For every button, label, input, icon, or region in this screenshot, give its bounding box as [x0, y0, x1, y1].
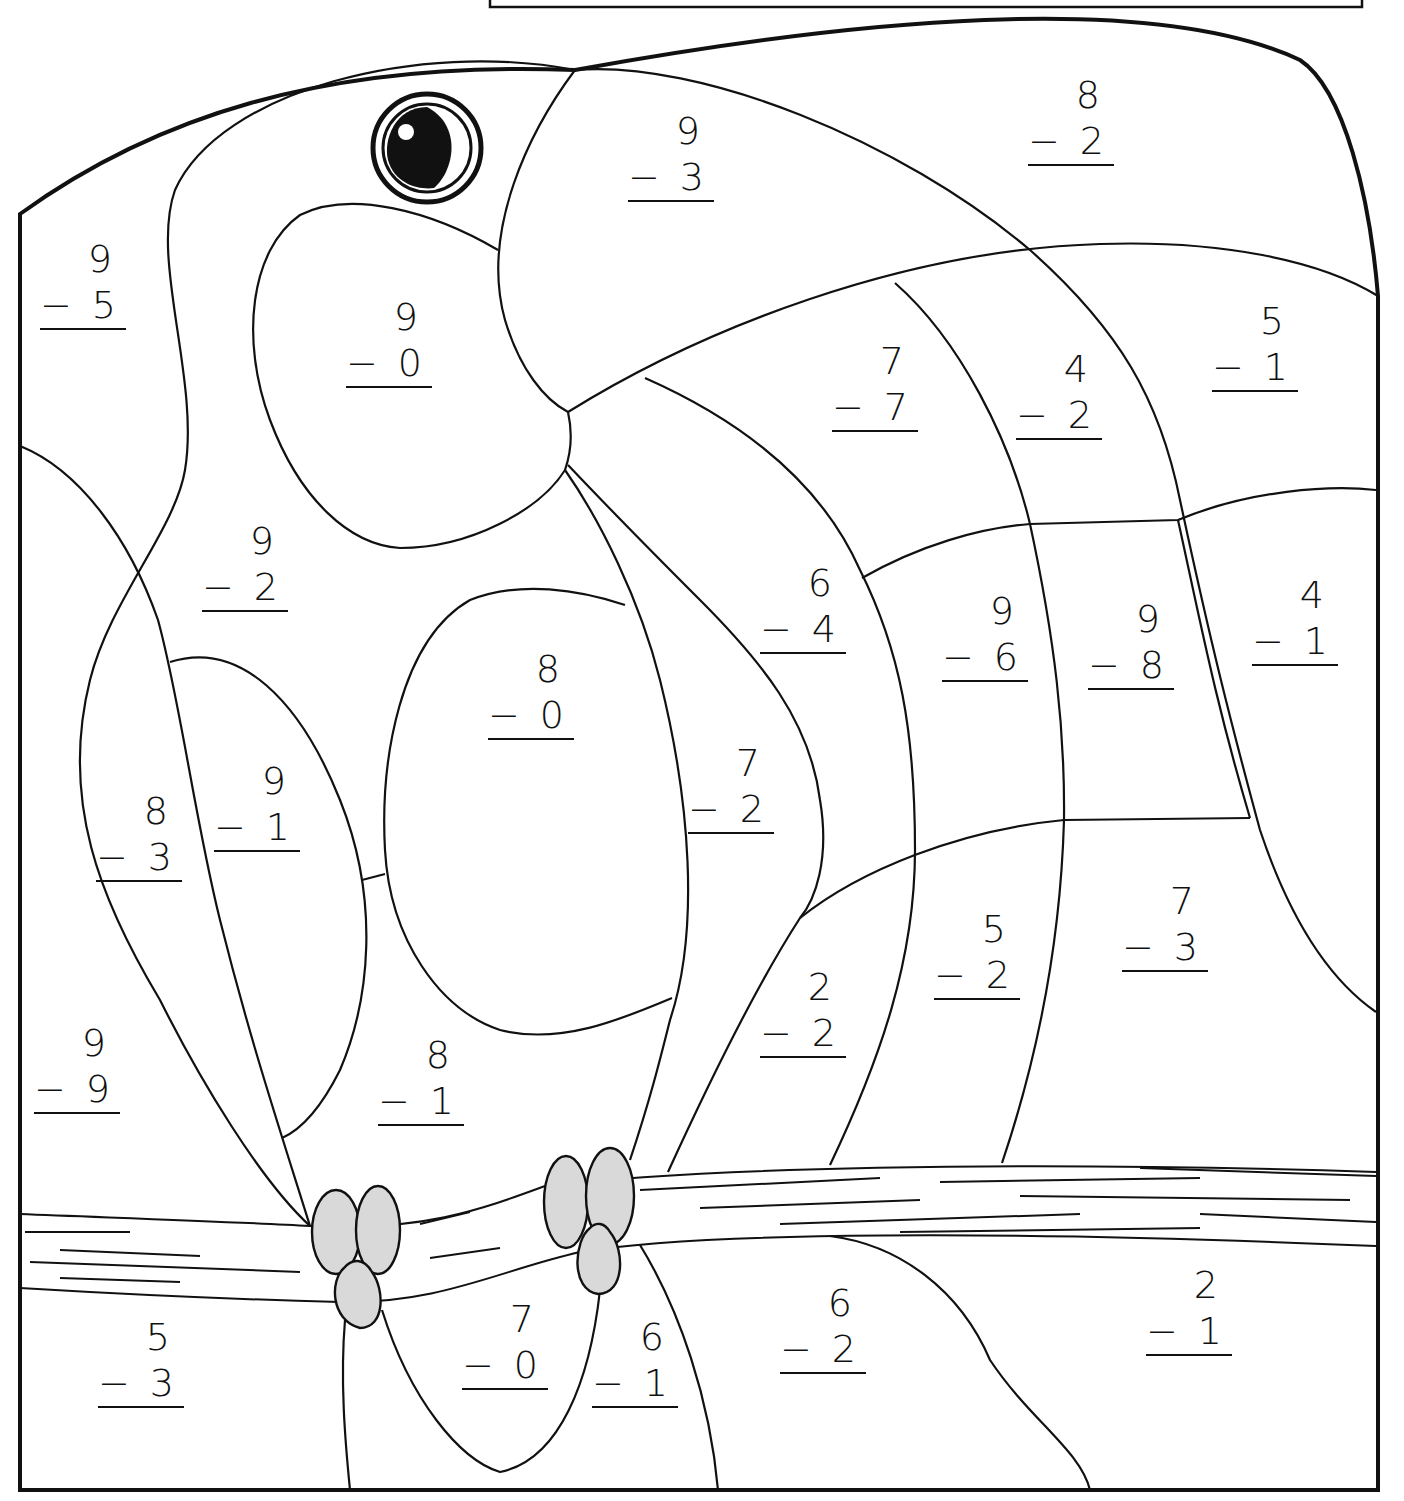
subtraction-problem: 5−1 [1212, 298, 1298, 392]
minus-sign: − [462, 1343, 494, 1387]
subtrahend-row: −1 [1212, 344, 1298, 392]
minus-sign: − [760, 1011, 792, 1055]
minuend: 8 [1028, 72, 1114, 118]
subtrahend-row: −2 [760, 1010, 846, 1058]
minuend: 5 [1212, 298, 1298, 344]
subtrahend-row: −0 [346, 340, 432, 388]
minus-sign: − [628, 155, 660, 199]
minuend: 9 [202, 518, 288, 564]
subtrahend: 5 [92, 283, 116, 327]
subtrahend: 2 [1068, 393, 1092, 437]
minuend: 7 [1122, 878, 1208, 924]
minus-sign: − [942, 635, 974, 679]
subtrahend: 2 [254, 565, 278, 609]
subtraction-problem: 9−9 [34, 1020, 120, 1114]
minuend: 6 [760, 560, 846, 606]
subtrahend: 2 [986, 953, 1010, 997]
subtrahend-row: −7 [832, 384, 918, 432]
minus-sign: − [934, 953, 966, 997]
minus-sign: − [202, 565, 234, 609]
minuend: 7 [688, 740, 774, 786]
minus-sign: − [34, 1067, 66, 1111]
subtraction-problem: 9−2 [202, 518, 288, 612]
minuend: 9 [214, 758, 300, 804]
subtrahend-row: −2 [1016, 392, 1102, 440]
subtrahend-row: −5 [40, 282, 126, 330]
subtraction-problem: 9−5 [40, 236, 126, 330]
subtraction-problem: 9−1 [214, 758, 300, 852]
subtraction-problem: 8−1 [378, 1032, 464, 1126]
subtraction-problem: 6−4 [760, 560, 846, 654]
minus-sign: − [98, 1361, 130, 1405]
toucan-eye [373, 94, 481, 202]
minus-sign: − [1122, 925, 1154, 969]
subtraction-problem: 7−2 [688, 740, 774, 834]
subtrahend-row: −2 [780, 1326, 866, 1374]
subtraction-problem: 9−8 [1088, 596, 1174, 690]
minuend: 9 [34, 1020, 120, 1066]
subtrahend: 2 [812, 1011, 836, 1055]
minuend: 7 [462, 1296, 548, 1342]
subtraction-problem: 8−2 [1028, 72, 1114, 166]
subtrahend: 0 [398, 341, 422, 385]
subtraction-problem: 4−1 [1252, 572, 1338, 666]
minuend: 8 [96, 788, 182, 834]
minus-sign: − [1028, 119, 1060, 163]
subtraction-problem: 6−2 [780, 1280, 866, 1374]
subtrahend-row: −1 [1146, 1308, 1232, 1356]
minus-sign: − [760, 607, 792, 651]
subtrahend: 8 [1140, 643, 1164, 687]
subtrahend-row: −6 [942, 634, 1028, 682]
subtrahend-row: −4 [760, 606, 846, 654]
minus-sign: − [688, 787, 720, 831]
minus-sign: − [346, 341, 378, 385]
minus-sign: − [832, 385, 864, 429]
subtrahend-row: −2 [688, 786, 774, 834]
minus-sign: − [1088, 643, 1120, 687]
minus-sign: − [592, 1361, 624, 1405]
subtraction-problem: 7−0 [462, 1296, 548, 1390]
subtrahend: 3 [680, 155, 704, 199]
minuend: 5 [934, 906, 1020, 952]
subtrahend-row: −1 [1252, 618, 1338, 666]
subtrahend-row: −9 [34, 1066, 120, 1114]
subtrahend: 6 [994, 635, 1018, 679]
subtraction-problem: 7−3 [1122, 878, 1208, 972]
subtrahend: 2 [740, 787, 764, 831]
subtrahend-row: −0 [462, 1342, 548, 1390]
minuend: 8 [378, 1032, 464, 1078]
minus-sign: − [1016, 393, 1048, 437]
subtrahend: 2 [832, 1327, 856, 1371]
subtraction-problem: 8−3 [96, 788, 182, 882]
subtrahend-row: −1 [378, 1078, 464, 1126]
subtraction-problem: 4−2 [1016, 346, 1102, 440]
minus-sign: − [40, 283, 72, 327]
minuend: 9 [1088, 596, 1174, 642]
subtrahend-row: −0 [488, 692, 574, 740]
minuend: 5 [98, 1314, 184, 1360]
minus-sign: − [96, 835, 128, 879]
minus-sign: − [488, 693, 520, 737]
minus-sign: − [1252, 619, 1284, 663]
subtrahend: 1 [1264, 345, 1288, 389]
subtrahend-row: −2 [934, 952, 1020, 1000]
minuend: 9 [628, 108, 714, 154]
minus-sign: − [780, 1327, 812, 1371]
subtrahend-row: −1 [214, 804, 300, 852]
subtrahend-row: −2 [1028, 118, 1114, 166]
minuend: 7 [832, 338, 918, 384]
subtraction-problem: 2−2 [760, 964, 846, 1058]
subtraction-problem: 5−3 [98, 1314, 184, 1408]
minuend: 9 [942, 588, 1028, 634]
subtraction-problem: 2−1 [1146, 1262, 1232, 1356]
subtrahend-row: −1 [592, 1360, 678, 1408]
subtraction-problem: 6−1 [592, 1314, 678, 1408]
subtraction-problem: 5−2 [934, 906, 1020, 1000]
minus-sign: − [1146, 1309, 1178, 1353]
minuend: 4 [1016, 346, 1102, 392]
minuend: 8 [488, 646, 574, 692]
subtrahend: 3 [1174, 925, 1198, 969]
subtraction-problem: 9−3 [628, 108, 714, 202]
minus-sign: − [1212, 345, 1244, 389]
subtrahend: 1 [430, 1079, 454, 1123]
